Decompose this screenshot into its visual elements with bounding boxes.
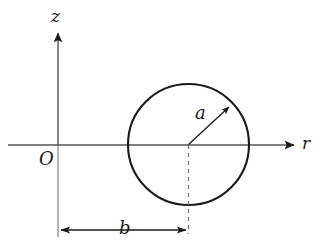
dimension-label-b: b	[119, 219, 131, 237]
diagram-svg	[0, 0, 322, 251]
origin-label: O	[39, 150, 54, 168]
radius-label-a: a	[195, 104, 206, 122]
axis-label-r: r	[302, 135, 310, 152]
axis-label-z: z	[51, 8, 60, 25]
figure-canvas: z r O a b	[0, 0, 322, 251]
